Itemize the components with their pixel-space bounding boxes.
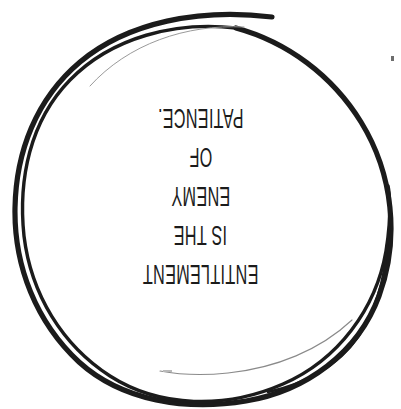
- circle-faint-upper-arc: [90, 27, 244, 86]
- paper-speck-top-right: [391, 56, 394, 61]
- hand-drawn-circle: [0, 0, 401, 409]
- paper-speck-bottom-left: [163, 370, 172, 372]
- circle-outer-stroke: [15, 14, 391, 404]
- circle-tail-stroke: [268, 245, 387, 392]
- artwork-canvas: ENTITLEMENT IS THE ENEMY OF PATIENCE.: [0, 0, 401, 409]
- circle-inner-stroke: [23, 26, 390, 401]
